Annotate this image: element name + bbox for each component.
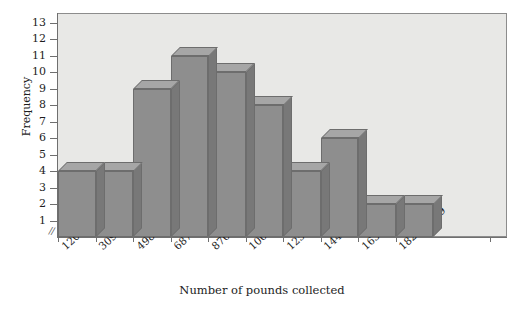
y-tick — [50, 105, 57, 106]
bar-side-face — [133, 162, 142, 237]
bar-side-face — [321, 162, 330, 237]
y-tick-label: 12 — [24, 33, 46, 44]
y-tick — [50, 171, 57, 172]
y-tick — [50, 72, 57, 73]
y-tick — [50, 39, 57, 40]
bar-side-face — [358, 129, 367, 237]
y-tick — [50, 23, 57, 24]
y-tick — [50, 56, 57, 57]
x-axis-line — [57, 237, 507, 238]
y-tick-label: 1 — [24, 215, 46, 226]
y-tick-label: 4 — [24, 165, 46, 176]
bar-side-face — [208, 47, 217, 237]
bar-top-face — [171, 47, 218, 56]
histogram-figure: 12345678910111213 Frequency // 120–30830… — [0, 0, 524, 309]
y-tick — [50, 155, 57, 156]
y-tick-label: 2 — [24, 198, 46, 209]
bar-side-face — [283, 96, 292, 237]
y-tick — [50, 138, 57, 139]
y-tick-label: 13 — [24, 17, 46, 28]
bar-side-face — [171, 80, 180, 237]
y-tick — [50, 89, 57, 90]
x-axis-title: Number of pounds collected — [0, 283, 524, 297]
axis-break-icon: // — [48, 225, 55, 237]
y-tick — [50, 122, 57, 123]
y-tick — [50, 221, 57, 222]
histogram-bar — [58, 162, 96, 237]
y-axis-title: Frequency — [20, 62, 33, 152]
y-tick-label: 3 — [24, 182, 46, 193]
bar-front-face — [58, 171, 96, 237]
bar-side-face — [96, 162, 105, 237]
y-tick-label: 11 — [24, 50, 46, 61]
bar-side-face — [246, 63, 255, 237]
x-tick-end — [490, 237, 491, 242]
y-tick — [50, 204, 57, 205]
y-tick — [50, 188, 57, 189]
